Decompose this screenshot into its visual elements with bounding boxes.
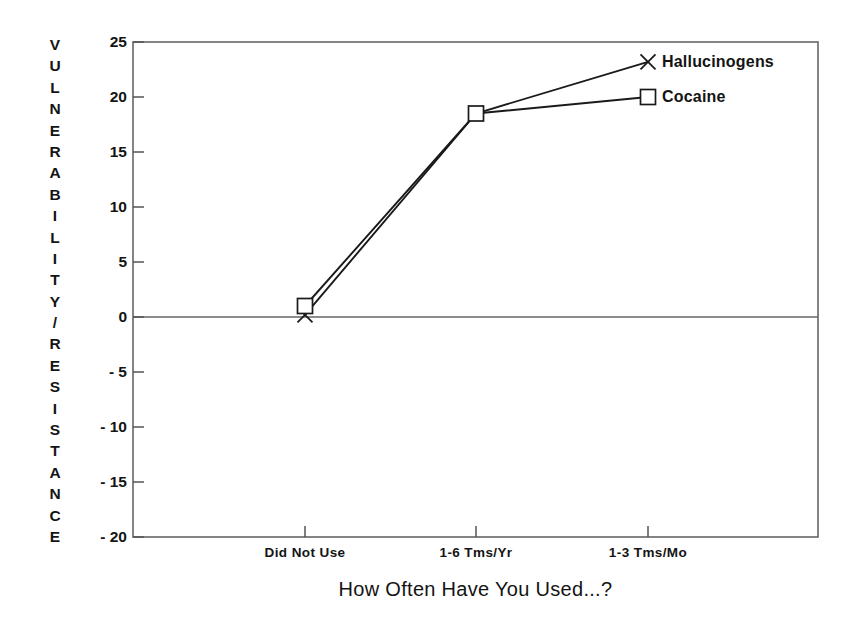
- y-axis-title-char: C: [40, 505, 70, 526]
- y-axis-title-char: S: [40, 419, 70, 440]
- y-axis-title-char: Y: [40, 291, 70, 312]
- y-axis-title-char: E: [40, 120, 70, 141]
- y-axis-ticks: [133, 42, 144, 537]
- series-markers: [298, 54, 656, 322]
- y-tick-label: 0: [67, 308, 127, 326]
- data-point-cocaine: [469, 106, 484, 121]
- chart-figure: VULNERABILITY/RESISTANCE 2520151050- 5- …: [0, 0, 856, 636]
- x-axis-title: How Often Have You Used...?: [133, 578, 818, 601]
- y-axis-title-char: L: [40, 227, 70, 248]
- y-tick-label: - 20: [67, 528, 127, 546]
- y-axis-title-char: S: [40, 376, 70, 397]
- series-line-cocaine: [305, 97, 648, 306]
- y-tick-label: 25: [67, 33, 127, 51]
- y-axis-title-char: I: [40, 398, 70, 419]
- series-lines: [305, 62, 648, 315]
- data-point-cocaine: [298, 299, 313, 314]
- y-axis-title-char: E: [40, 526, 70, 547]
- data-point-hallucinogens: [641, 54, 656, 69]
- y-axis-title-char: A: [40, 162, 70, 183]
- series-line-hallucinogens: [305, 62, 648, 315]
- y-tick-label: - 10: [67, 418, 127, 436]
- y-axis-title-char: R: [40, 333, 70, 354]
- series-label-hallucinogens: Hallucinogens: [662, 53, 774, 71]
- y-axis-title-char: I: [40, 205, 70, 226]
- x-tick-label-did-not-use: Did Not Use: [265, 545, 346, 560]
- y-axis-title-char: B: [40, 184, 70, 205]
- y-axis-title-char: A: [40, 462, 70, 483]
- y-axis-title-char: N: [40, 483, 70, 504]
- data-point-cocaine: [641, 90, 656, 105]
- y-tick-label: 15: [67, 143, 127, 161]
- x-tick-label-1-6-tms-yr: 1-6 Tms/Yr: [439, 545, 512, 560]
- x-axis-ticks: [305, 526, 648, 537]
- y-axis-title-char: U: [40, 55, 70, 76]
- y-tick-label: 10: [67, 198, 127, 216]
- y-axis-title-char: E: [40, 355, 70, 376]
- y-axis-title-char: T: [40, 440, 70, 461]
- y-axis-title: VULNERABILITY/RESISTANCE: [40, 34, 70, 547]
- y-axis-title-char: T: [40, 269, 70, 290]
- y-tick-label: 20: [67, 88, 127, 106]
- y-axis-title-char: V: [40, 34, 70, 55]
- y-axis-title-char: I: [40, 248, 70, 269]
- y-axis-title-char: L: [40, 77, 70, 98]
- series-label-cocaine: Cocaine: [662, 88, 726, 106]
- y-axis-title-char: N: [40, 98, 70, 119]
- y-tick-label: - 5: [67, 363, 127, 381]
- y-axis-title-char: R: [40, 141, 70, 162]
- y-axis-title-char: /: [40, 312, 70, 333]
- plot-area: [0, 0, 856, 636]
- x-tick-label-1-3-tms-mo: 1-3 Tms/Mo: [609, 545, 687, 560]
- y-axis-tick-labels: 2520151050- 5- 10- 15- 20: [67, 0, 127, 636]
- y-tick-label: 5: [67, 253, 127, 271]
- y-tick-label: - 15: [67, 473, 127, 491]
